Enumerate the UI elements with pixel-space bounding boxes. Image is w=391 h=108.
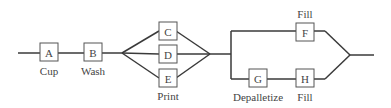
node-f-label: F — [302, 27, 308, 39]
edge-c-merge — [176, 31, 210, 54]
flow-diagram: A Cup B Wash C D E Print F Fill G Depall… — [0, 0, 391, 108]
node-h-caption: Fill — [297, 91, 312, 103]
edge-e-merge — [176, 54, 210, 78]
node-f: F Fill — [296, 8, 314, 41]
node-a-label: A — [45, 47, 53, 59]
node-a-caption: Cup — [40, 65, 59, 77]
edge-split-d — [122, 53, 159, 54]
node-g-label: G — [254, 73, 262, 85]
node-c: C — [159, 22, 177, 40]
node-g-caption: Depalletize — [233, 91, 283, 103]
node-d-label: D — [164, 49, 172, 61]
edge-f-merge — [325, 31, 350, 55]
node-h: H Fill — [296, 69, 314, 103]
node-b-caption: Wash — [81, 65, 106, 77]
node-a: A Cup — [40, 43, 59, 77]
node-g: G Depalletize — [233, 69, 283, 103]
node-h-label: H — [301, 73, 309, 85]
edge-split-c — [122, 31, 159, 53]
node-e-label: E — [165, 73, 172, 85]
edge-split-e — [122, 53, 159, 78]
node-f-caption: Fill — [297, 8, 312, 20]
node-b: B Wash — [81, 43, 106, 77]
node-d: D — [159, 45, 177, 63]
node-e: E Print — [157, 69, 178, 102]
node-e-caption: Print — [157, 90, 178, 102]
edge-h-merge — [325, 55, 350, 79]
node-c-label: C — [164, 26, 171, 38]
node-b-label: B — [89, 47, 96, 59]
